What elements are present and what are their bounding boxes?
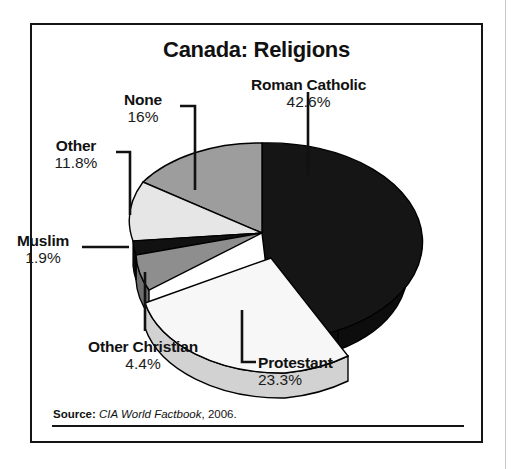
callout-muslim-value: 1.9% — [8, 249, 78, 266]
callout-protestant: Protestant 23.3% — [258, 354, 408, 389]
callout-roman-catholic-value: 42.6% — [226, 93, 391, 110]
callout-other-christian-label: Other Christian — [48, 338, 238, 355]
callout-protestant-value: 23.3% — [258, 371, 408, 388]
callout-roman-catholic-label: Roman Catholic — [226, 76, 391, 93]
callout-roman-catholic: Roman Catholic 42.6% — [226, 76, 391, 111]
leader-line-other — [116, 152, 130, 215]
callout-none: None 16% — [110, 91, 176, 126]
source-label: Source: — [53, 408, 96, 420]
callout-muslim: Muslim 1.9% — [8, 232, 78, 267]
source-attribution: Source: CIA World Factbook, 2006. — [53, 408, 237, 420]
callout-other-label: Other — [40, 137, 112, 154]
callout-muslim-label: Muslim — [8, 232, 78, 249]
callout-other: Other 11.8% — [40, 137, 112, 172]
source-year: , 2006. — [202, 408, 237, 420]
page-edge-line — [505, 0, 506, 469]
source-work-title: CIA World Factbook — [99, 408, 201, 420]
callout-protestant-label: Protestant — [258, 354, 408, 371]
callout-none-label: None — [110, 91, 176, 108]
pie-chart: Roman Catholic 42.6% None 16% Other 11.8… — [32, 25, 485, 445]
figure-frame: Canada: Religions — [30, 23, 483, 443]
callout-other-christian-value: 4.4% — [48, 355, 238, 372]
source-divider — [52, 425, 464, 427]
callout-none-value: 16% — [110, 108, 176, 125]
callout-other-value: 11.8% — [40, 154, 112, 171]
callout-other-christian: Other Christian 4.4% — [48, 338, 238, 373]
